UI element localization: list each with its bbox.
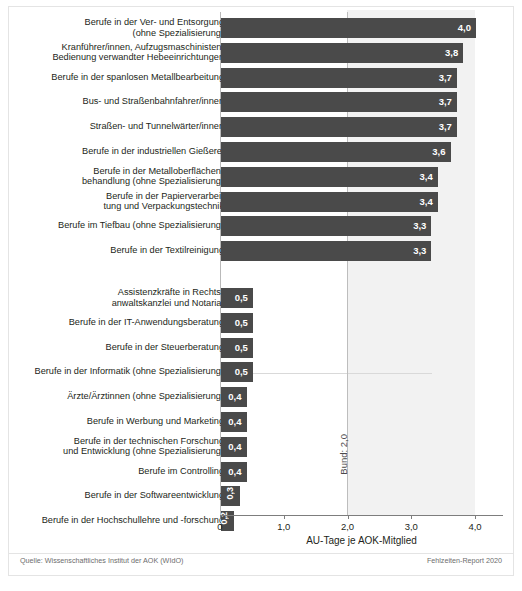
bar-category-label: Bus- und Straßenbahnfahrer/innen	[12, 96, 224, 107]
bar-value-label: 0,4	[228, 416, 241, 428]
bar: 3,7	[221, 117, 457, 137]
bar-value-label: 0,4	[228, 466, 241, 478]
source-note: Quelle: Wissenschaftliches Institut der …	[20, 556, 183, 565]
bar-category-label: Berufe in der Steuerberatung	[12, 342, 224, 353]
x-axis-tick-label: 0	[217, 521, 222, 532]
x-axis-tick	[475, 515, 476, 519]
x-axis-tick-label: 2,0	[341, 521, 354, 532]
bar: 3,4	[221, 192, 438, 212]
bar-category-label: Berufe in der industriellen Gießerei	[12, 146, 224, 157]
bar: 3,7	[221, 68, 457, 88]
bar: 0,5	[221, 313, 253, 333]
bar: 0,4	[221, 437, 247, 457]
bar-value-label: 0,3	[224, 487, 236, 500]
bar-value-label: 0,4	[228, 391, 241, 403]
bar-category-label: Berufe in Werbung und Marketing	[12, 416, 224, 427]
bar-value-label: 0,5	[235, 317, 248, 329]
bar-row: Berufe in der Papierverarbei- tung und V…	[0, 192, 522, 212]
bar-row: Berufe in Werbung und Marketing0,4	[0, 412, 522, 432]
bar-value-label: 3,4	[420, 196, 433, 208]
bar: 0,4	[221, 387, 247, 407]
bar-value-label: 3,7	[439, 96, 452, 108]
bar-category-label: Berufe in der Papierverarbei- tung und V…	[12, 191, 224, 212]
bar-row: Assistenzkräfte in Rechts- anwaltskanzle…	[0, 288, 522, 308]
bar-category-label: Berufe in der Metalloberflächen- behandl…	[12, 166, 224, 187]
x-axis-tick	[284, 515, 285, 519]
bar-category-label: Berufe im Controlling	[12, 466, 224, 477]
bar-value-label: 3,7	[439, 121, 452, 133]
x-axis-tick-label: 3,0	[405, 521, 418, 532]
bar-row: Berufe in der Softwareentwicklung0,3	[0, 486, 522, 506]
bar-row: Straßen- und Tunnelwärter/innen3,7	[0, 117, 522, 137]
bar-category-label: Berufe in der Hochschullehre und -forsch…	[12, 515, 224, 526]
bar-category-label: Kranführer/innen, Aufzugsmaschinisten, B…	[12, 42, 224, 63]
bar-value-label: 3,8	[445, 47, 458, 59]
bar-category-label: Assistenzkräfte in Rechts- anwaltskanzle…	[12, 287, 224, 308]
x-axis-tick	[411, 515, 412, 519]
x-axis-tick-label: 1,0	[277, 521, 290, 532]
bar-value-label: 0,5	[235, 292, 248, 304]
bar-category-label: Berufe in der technischen Forschung und …	[12, 436, 224, 457]
bar: 4,0	[221, 18, 476, 38]
bar-category-label: Berufe in der Textilreinigung	[12, 245, 224, 256]
bar-row: Berufe im Tiefbau (ohne Spezialisierung)…	[0, 216, 522, 236]
bar: 3,6	[221, 142, 451, 162]
bar-value-label: 3,7	[439, 72, 452, 84]
x-axis-tick	[220, 515, 221, 519]
x-axis-line	[220, 515, 503, 516]
report-note: Fehlzeiten-Report 2020	[427, 556, 502, 565]
footer-divider	[9, 553, 513, 554]
bar-row: Ärzte/Ärztinnen (ohne Spezialisierung)0,…	[0, 387, 522, 407]
bar-row: Berufe im Controlling0,4	[0, 462, 522, 482]
bar: 0,4	[221, 412, 247, 432]
bar-row: Berufe in der spanlosen Metallbearbeitun…	[0, 68, 522, 88]
bar-value-label: 3,3	[413, 245, 426, 257]
bar: 3,8	[221, 43, 463, 63]
bar-category-label: Straßen- und Tunnelwärter/innen	[12, 121, 224, 132]
bar-row: Berufe in der Informatik (ohne Spezialis…	[0, 362, 522, 382]
bar-row: Berufe in der industriellen Gießerei3,6	[0, 142, 522, 162]
bar-row: Bus- und Straßenbahnfahrer/innen3,7	[0, 92, 522, 112]
bar: 0,5	[221, 338, 253, 358]
bar-row: Berufe in der technischen Forschung und …	[0, 437, 522, 457]
bar-value-label: 4,0	[458, 22, 471, 34]
x-axis-title: AU-Tage je AOK-Mitglied	[220, 535, 503, 546]
bar: 3,4	[221, 167, 438, 187]
bar: 0,5	[221, 288, 253, 308]
bar: 0,4	[221, 462, 247, 482]
bar-row: Berufe in der Metalloberflächen- behandl…	[0, 167, 522, 187]
bar-category-label: Berufe im Tiefbau (ohne Spezialisierung)	[12, 220, 224, 231]
bar-value-label: 0,4	[228, 441, 241, 453]
bar: 3,7	[221, 92, 457, 112]
bar: 0,5	[221, 362, 253, 382]
bar-value-label: 3,6	[432, 146, 445, 158]
plot-area: Bund: 2,0 Berufe in der Ver- und Entsorg…	[0, 0, 522, 591]
x-axis-tick	[348, 515, 349, 519]
bar-value-label: 3,4	[420, 171, 433, 183]
bar-category-label: Berufe in der Softwareentwicklung	[12, 490, 224, 501]
bar-row: Kranführer/innen, Aufzugsmaschinisten, B…	[0, 43, 522, 63]
bar-category-label: Ärzte/Ärztinnen (ohne Spezialisierung)	[12, 391, 224, 402]
bar-value-label: 3,3	[413, 220, 426, 232]
bar-row: Berufe in der Steuerberatung0,5	[0, 338, 522, 358]
bar-category-label: Berufe in der IT-Anwendungsberatung	[12, 317, 224, 328]
bar-row: Berufe in der Ver- und Entsorgung (ohne …	[0, 18, 522, 38]
bar-value-label: 0,5	[235, 366, 248, 378]
bar-row: Berufe in der Textilreinigung3,3	[0, 241, 522, 261]
bar: 0,3	[221, 486, 240, 506]
chart-figure: Bund: 2,0 Berufe in der Ver- und Entsorg…	[0, 0, 522, 591]
bar-category-label: Berufe in der Ver- und Entsorgung (ohne …	[12, 17, 224, 38]
bar-category-label: Berufe in der spanlosen Metallbearbeitun…	[12, 72, 224, 83]
bar-category-label: Berufe in der Informatik (ohne Spezialis…	[12, 366, 224, 377]
bar-row: Berufe in der IT-Anwendungsberatung0,5	[0, 313, 522, 333]
bar: 3,3	[221, 241, 431, 261]
bar: 3,3	[221, 216, 431, 236]
bar-value-label: 0,5	[235, 342, 248, 354]
x-axis-tick-label: 4,0	[468, 521, 481, 532]
